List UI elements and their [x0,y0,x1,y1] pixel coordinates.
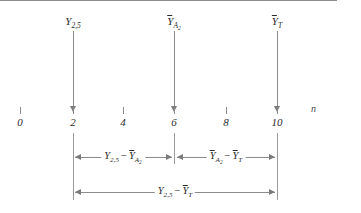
axis-tick-label-8: 8 [223,116,229,128]
axis-tick-6 [174,107,175,114]
axis-tick-label-10: 10 [272,116,283,128]
deviation-decomposition-figure: Y2,5 YA2 YT 0 2 4 6 8 10 n Y2,5−YA2 YA2−… [0,0,361,213]
measure-label-total-deviation: Y2,5−YT [155,186,195,199]
axis-line [0,0,337,1]
axis-tick-2 [73,107,74,114]
axis-tick-8 [226,107,227,114]
axis-tick-10 [277,107,278,114]
drop-arrow-treatment-mean [174,31,175,107]
measure-label-within-deviation: Y2,5−YA2 [101,151,145,166]
guide-line-left [73,133,74,200]
axis-tick-0 [20,107,21,114]
drop-arrow-observation [73,31,74,107]
arrowhead-between-right-icon [269,154,275,160]
axis-tick-label-6: 6 [171,116,177,128]
arrowhead-within-right-icon [166,154,172,160]
axis-tick-4 [123,107,124,114]
arrowhead-total-right-icon [269,189,275,195]
axis-tick-label-4: 4 [120,116,126,128]
axis-variable-label: n [311,103,316,114]
arrowhead-within-left-icon [75,154,81,160]
measure-label-between-deviation: YA2−YT [207,151,246,166]
arrowhead-total-left-icon [75,189,81,195]
axis-tick-label-0: 0 [17,116,23,128]
drop-arrow-grand-mean [277,31,278,107]
point-label-observation: Y2,5 [65,16,80,30]
axis-tick-label-2: 2 [70,116,76,128]
point-label-grand-mean: YT [272,16,282,30]
guide-line-middle [174,133,175,164]
point-label-treatment-mean: YA2 [167,16,181,32]
guide-line-right [277,133,278,200]
arrowhead-between-left-icon [177,154,183,160]
